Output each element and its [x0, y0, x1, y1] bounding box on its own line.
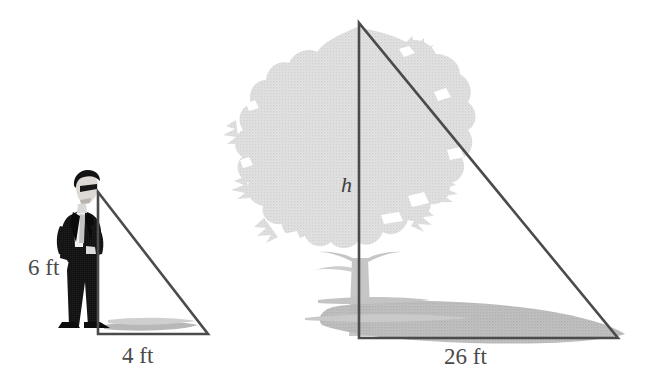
man-legs [67, 255, 99, 326]
tree-bough-left-2 [315, 266, 353, 272]
man-tie [79, 214, 85, 243]
man-illustration [57, 170, 198, 331]
tree-shadow-label: 26 ft [444, 344, 487, 370]
similar-triangles-figure: 6 ft 4 ft h 26 ft [0, 0, 658, 387]
tree-height-label: h [341, 172, 352, 198]
tree-bough-right [368, 252, 402, 262]
tree-canopy-fringe [223, 120, 239, 144]
man-hand [86, 246, 96, 254]
man-triangle-outline [98, 192, 208, 334]
man-neck [77, 204, 87, 213]
man-shadow-label: 4 ft [122, 343, 153, 369]
man-triangle [98, 192, 208, 334]
tree-bough-left [319, 252, 353, 262]
tree-illustration [223, 27, 625, 344]
man-height-label: 6 ft [28, 255, 59, 281]
figure-graphics [0, 0, 658, 387]
tree-canopy [235, 27, 476, 248]
